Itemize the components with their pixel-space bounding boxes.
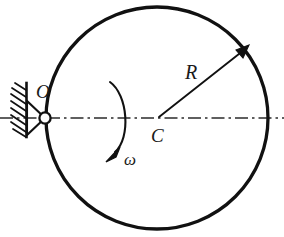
angular-velocity-arc-arrow [106, 82, 125, 162]
mechanics-diagram-figure: O C R ω [0, 0, 284, 237]
center-label-C: C [151, 126, 164, 145]
radius-arrow [159, 45, 249, 117]
ground-hatching [11, 83, 26, 137]
radius-label-R: R [185, 62, 197, 82]
angular-velocity-label-omega: ω [124, 151, 136, 168]
pivot-label-O: O [36, 82, 50, 101]
pin-joint-circle [39, 112, 50, 123]
diagram-canvas [0, 0, 284, 237]
